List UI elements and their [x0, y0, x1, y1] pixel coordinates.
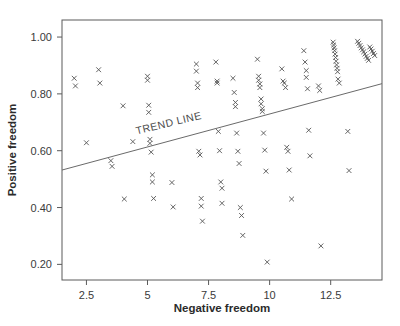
x-tick-label: 5 [144, 289, 150, 301]
y-tick-label: 0.60 [31, 145, 52, 157]
x-tick-label: 7.5 [201, 289, 216, 301]
x-tick-label: 2.5 [79, 289, 94, 301]
chart-canvas: 0.200.400.600.801.00 2.557.51012.5 TREND… [0, 0, 400, 326]
x-tick-label: 12.5 [320, 289, 341, 301]
y-axis-title: Positive freedom [6, 104, 18, 197]
x-axis-title: Negative freedom [174, 302, 271, 314]
y-tick-label: 0.20 [31, 258, 52, 270]
scatter-plot-figure: 0.200.400.600.801.00 2.557.51012.5 TREND… [0, 0, 400, 326]
y-tick-label: 1.00 [31, 31, 52, 43]
chart-background [0, 0, 400, 326]
y-tick-label: 0.40 [31, 202, 52, 214]
y-tick-label: 0.80 [31, 88, 52, 100]
x-tick-label: 10 [264, 289, 276, 301]
